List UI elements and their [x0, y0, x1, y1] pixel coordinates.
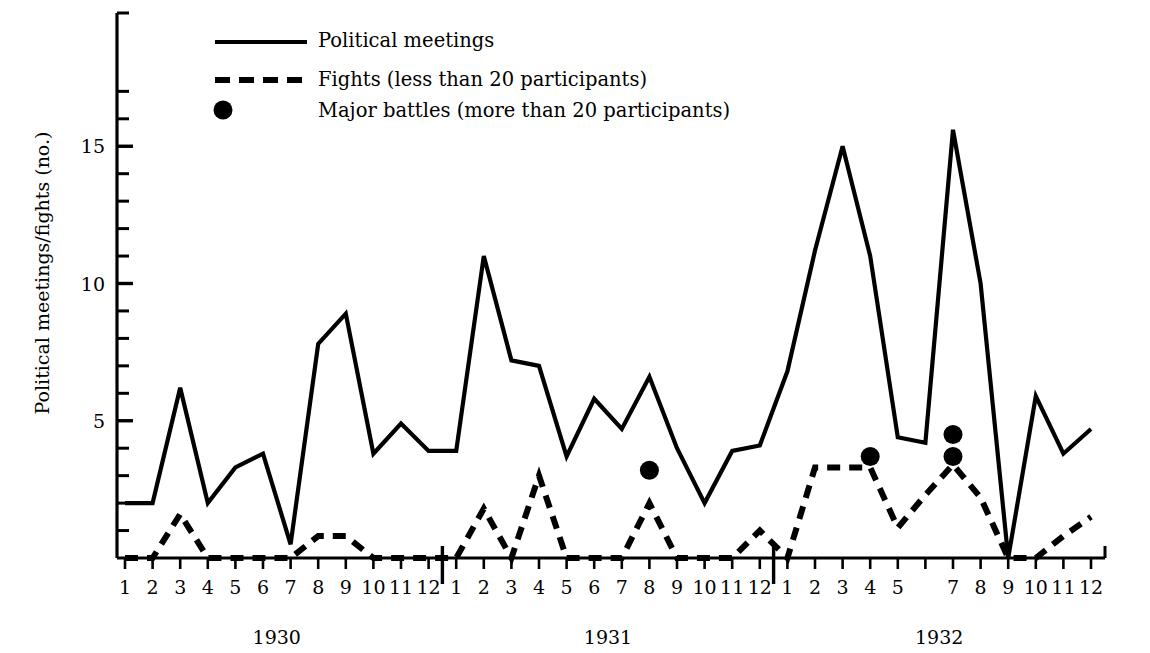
x-axis-month-label: 5 — [892, 576, 904, 598]
x-axis-month-label: 10 — [693, 576, 717, 598]
y-axis-tick-label: 5 — [93, 410, 105, 432]
major-battle-point — [944, 425, 963, 444]
x-axis-month-label: 2 — [478, 576, 490, 598]
chart-plot-area: 51015 Political meetingsFights (less tha… — [0, 0, 1150, 653]
x-axis-year-label: 1932 — [915, 626, 963, 648]
x-axis-month-label: 2 — [147, 576, 159, 598]
x-axis-month-label: 5 — [229, 576, 241, 598]
x-axis-month-label: 4 — [864, 576, 876, 598]
x-axis-month-label: 9 — [1002, 576, 1014, 598]
data-series-layer — [125, 130, 1091, 558]
legend-entry-label: Major battles (more than 20 participants… — [318, 99, 730, 122]
x-axis-labels: 1234567891011121930123456789101112193112… — [119, 546, 1103, 648]
x-axis-month-label: 9 — [671, 576, 683, 598]
x-axis-month-label: 7 — [947, 576, 959, 598]
x-axis-month-label: 8 — [643, 576, 655, 598]
chart-legend: Political meetingsFights (less than 20 p… — [214, 29, 731, 122]
x-axis-month-label: 1 — [450, 576, 462, 598]
x-axis-month-label: 6 — [588, 576, 600, 598]
x-axis-month-label: 12 — [417, 576, 441, 598]
x-axis-month-label: 3 — [837, 576, 849, 598]
major-battle-point — [640, 461, 659, 480]
legend-entry-label: Fights (less than 20 participants) — [318, 68, 647, 91]
x-axis-month-label: 10 — [1024, 576, 1048, 598]
x-axis-month-label: 4 — [533, 576, 545, 598]
x-axis-year-label: 1930 — [253, 626, 301, 648]
x-axis-month-label: 11 — [1051, 576, 1075, 598]
x-axis-month-label: 7 — [616, 576, 628, 598]
x-axis-month-label: 10 — [361, 576, 385, 598]
x-axis-month-label: 3 — [505, 576, 517, 598]
x-axis-month-label: 12 — [748, 576, 772, 598]
series-political-meetings-line — [125, 130, 1091, 558]
major-battle-point — [861, 447, 880, 466]
y-axis-tick-label: 10 — [81, 273, 105, 295]
legend-entry-label: Political meetings — [318, 29, 494, 52]
x-axis-month-label: 1 — [781, 576, 793, 598]
x-axis-year-label: 1931 — [584, 626, 632, 648]
chart-container: Political meetings/fights (no.) 51015 Po… — [0, 0, 1150, 653]
x-axis-month-label: 8 — [975, 576, 987, 598]
x-axis-month-label: 3 — [174, 576, 186, 598]
legend-swatch-filled-circle-icon — [214, 101, 233, 120]
x-axis-month-label: 5 — [561, 576, 573, 598]
x-axis-month-label: 7 — [285, 576, 297, 598]
x-axis-month-label: 8 — [312, 576, 324, 598]
x-axis-month-label: 12 — [1079, 576, 1103, 598]
x-axis-month-label: 11 — [389, 576, 413, 598]
x-axis-month-label: 1 — [119, 576, 131, 598]
x-axis-month-label: 2 — [809, 576, 821, 598]
y-axis-label: Political meetings/fights (no.) — [31, 123, 53, 423]
axis-layer: 51015 — [81, 13, 1105, 558]
x-axis-month-label: 6 — [257, 576, 269, 598]
major-battle-point — [944, 447, 963, 466]
x-axis-month-label: 11 — [720, 576, 744, 598]
x-axis-month-label: 4 — [202, 576, 214, 598]
x-axis-month-label: 9 — [340, 576, 352, 598]
y-axis-tick-label: 15 — [81, 135, 105, 157]
